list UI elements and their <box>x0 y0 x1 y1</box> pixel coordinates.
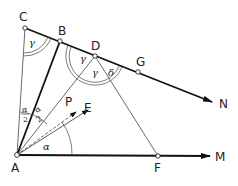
angle-gamma-D2: γ <box>92 67 98 78</box>
half-alpha-1-num: α <box>22 105 28 114</box>
point-C <box>23 26 27 30</box>
label-E: E <box>84 101 92 115</box>
angle-delta-D: δ <box>108 67 114 78</box>
point-D <box>93 54 97 58</box>
half-alpha-1-den: 2 <box>23 115 28 124</box>
label-F: F <box>154 161 161 175</box>
label-B: B <box>58 24 66 38</box>
angle-gamma-D1: γ <box>80 53 86 64</box>
half-alpha-2-num: α <box>33 104 43 115</box>
label-C: C <box>19 10 27 24</box>
angle-gamma-C: γ <box>29 37 35 48</box>
point-B <box>58 39 62 43</box>
label-A: A <box>11 161 20 175</box>
ray-CN <box>25 28 212 102</box>
label-G: G <box>136 55 145 69</box>
point-F <box>156 154 160 158</box>
label-M: M <box>215 150 225 164</box>
angle-alpha-A: α <box>43 141 50 152</box>
ray-AM <box>17 155 210 156</box>
point-A <box>15 153 20 158</box>
label-P: P <box>65 95 72 109</box>
angle-arc-A-alpha <box>62 122 72 155</box>
label-D: D <box>91 39 100 53</box>
angle-arc-C2 <box>23 38 51 56</box>
line-DF <box>95 56 158 156</box>
point-G <box>136 70 140 74</box>
angle-arc-C <box>24 37 49 53</box>
label-N: N <box>219 97 228 111</box>
geometry-diagram: C B D G N A F M P E γ γ γ δ α α 2 α 2 <box>0 0 238 186</box>
